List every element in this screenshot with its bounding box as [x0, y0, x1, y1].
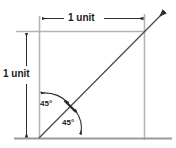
angle-label-upper: 45°	[40, 100, 52, 108]
width-dimension-label: 1 unit	[68, 13, 95, 23]
angle-label-lower: 45°	[62, 119, 74, 127]
unit-square-outline	[14, 14, 172, 140]
angle-arc-lower-path	[75, 110, 81, 134]
angle-arc-lower	[75, 110, 81, 134]
height-dimension-label: 1 unit	[3, 69, 30, 79]
geometry-diagram: 1 unit 1 unit 45° 45°	[0, 0, 176, 148]
